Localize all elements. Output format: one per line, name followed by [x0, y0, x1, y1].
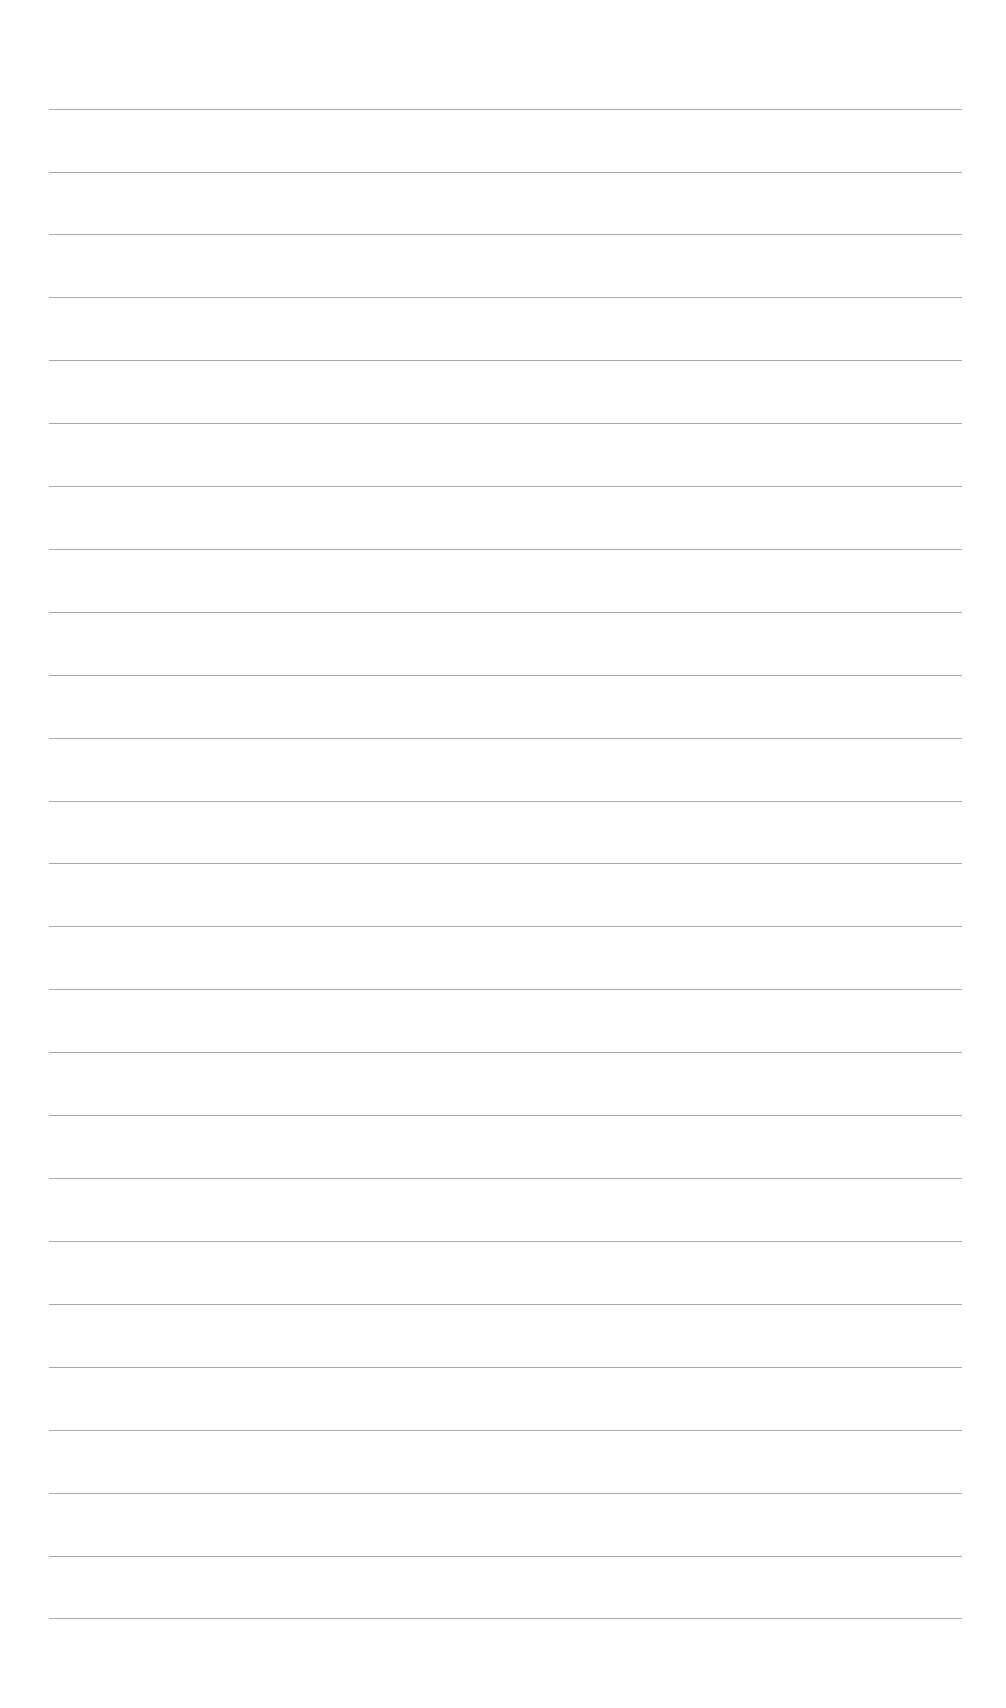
ruled-line [49, 612, 962, 613]
ruled-line [49, 1367, 962, 1368]
ruled-line [49, 863, 962, 864]
ruled-line [49, 1430, 962, 1431]
ruled-line [49, 234, 962, 235]
ruled-line [49, 549, 962, 550]
ruled-line [49, 1304, 962, 1305]
ruled-line [49, 486, 962, 487]
ruled-line [49, 926, 962, 927]
ruled-line [49, 1618, 962, 1619]
ruled-line [49, 423, 962, 424]
ruled-line [49, 1556, 962, 1557]
ruled-line [49, 172, 962, 173]
ruled-line [49, 738, 962, 739]
ruled-line [49, 1178, 962, 1179]
ruled-line [49, 675, 962, 676]
ruled-line [49, 109, 962, 110]
lined-paper-page [0, 0, 1006, 1708]
ruled-line [49, 360, 962, 361]
ruled-line [49, 297, 962, 298]
ruled-line [49, 989, 962, 990]
ruled-line [49, 1115, 962, 1116]
ruled-line [49, 1493, 962, 1494]
ruled-line [49, 801, 962, 802]
ruled-line [49, 1052, 962, 1053]
ruled-line [49, 1241, 962, 1242]
